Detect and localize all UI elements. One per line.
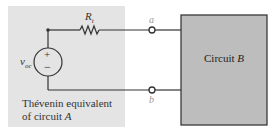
thevenin-caption: Thévenin equivalent of circuit A [22, 97, 112, 123]
rt-label-sub: t [92, 17, 94, 25]
terminal-b-label: b [149, 94, 154, 105]
circuit-b-box [181, 15, 267, 125]
thevenin-caption-line2: of circuit A [22, 110, 112, 123]
circuit-b-label: Circuit B [204, 52, 244, 64]
thevenin-caption-line1: Thévenin equivalent [22, 97, 112, 110]
terminal-a-label: a [149, 14, 154, 25]
source-plus-sign: + [44, 48, 50, 60]
terminal-a [149, 27, 155, 33]
rt-label-main: R [85, 10, 92, 22]
voc-label: voc [20, 55, 32, 70]
source-minus-sign: − [44, 60, 51, 75]
rt-label: Rt [85, 10, 94, 25]
terminal-b [149, 87, 155, 93]
voc-label-sub: oc [25, 62, 32, 70]
